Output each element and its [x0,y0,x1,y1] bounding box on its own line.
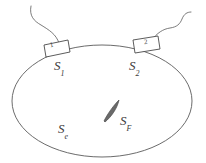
transducer-1-number: 1 [49,42,54,50]
transducer-1-body [44,40,70,57]
label-sf: SF [120,112,131,131]
ellipse-body-outline [12,45,192,157]
label-s1-subscript: 1 [61,69,65,78]
label-s2-subscript: 2 [136,69,140,78]
label-se: Se [58,120,68,139]
label-s1: S1 [54,57,65,76]
label-sf-subscript: F [127,124,132,133]
diagram-svg [0,0,206,163]
transducer-1[interactable] [44,40,70,57]
label-sf-base: S [120,113,127,128]
label-s1-base: S [54,58,61,73]
flaw-sliver [104,100,119,122]
figure-canvas: 1 2 S1 S2 SF Se [0,0,206,163]
label-s2-base: S [129,58,136,73]
label-se-subscript: e [65,132,69,141]
label-s2: S2 [129,57,140,76]
transducer-2-number: 2 [144,39,148,46]
lead-wire-1 [31,6,59,43]
label-se-base: S [58,121,65,136]
